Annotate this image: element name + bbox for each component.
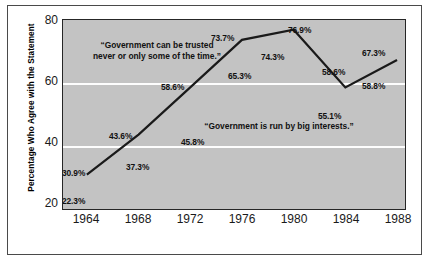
y-tick-40: 40	[32, 136, 58, 148]
x-tick-1968: 1968	[118, 213, 158, 225]
value-label-interests-1988: 58.8%	[362, 81, 385, 91]
annotation-trusted-line2: never or only some of the time.”	[93, 51, 221, 61]
value-label-trust-1984: 58.6%	[322, 67, 345, 77]
x-axis-tick-labels: 1964 1968 1972 1976 1980 1984 1988	[62, 213, 406, 233]
annotation-trusted-line1: “Government can be trusted	[100, 40, 213, 50]
y-axis-tick-labels: 80 60 40 20	[26, 0, 58, 261]
annotation-trusted: “Government can be trusted never or only…	[77, 40, 237, 62]
x-tick-1980: 1980	[274, 213, 314, 225]
x-tick-1988: 1988	[378, 213, 418, 225]
value-label-interests-1980: 74.3%	[261, 52, 284, 62]
x-tick-1976: 1976	[222, 213, 262, 225]
x-tick-1972: 1972	[170, 213, 210, 225]
value-label-interests-1964: 22.3%	[62, 196, 85, 206]
value-label-interests-1968: 37.3%	[126, 162, 149, 172]
value-label-trust-1972: 58.6%	[161, 82, 184, 92]
chart-figure: Percentage Who Agree with the Statement …	[0, 0, 429, 261]
value-label-interests-1984: 55.1%	[318, 111, 341, 121]
annotation-big-interests: “Government is run by big interests.”	[194, 121, 364, 132]
plot-area: 30.9% 43.6% 58.6% 73.7% 76.9% 58.6% 67.3…	[62, 19, 406, 210]
value-label-trust-1968: 43.6%	[109, 131, 132, 141]
value-label-interests-1972: 45.8%	[181, 137, 204, 147]
value-label-interests-1976: 65.3%	[228, 71, 251, 81]
value-label-trust-1988: 67.3%	[362, 48, 385, 58]
value-label-trust-1964: 30.9%	[62, 168, 85, 178]
y-tick-60: 60	[32, 75, 58, 87]
x-tick-1964: 1964	[66, 213, 106, 225]
y-tick-20: 20	[32, 197, 58, 209]
y-tick-80: 80	[32, 14, 58, 26]
value-label-trust-1980: 76.9%	[288, 25, 311, 35]
x-tick-1984: 1984	[326, 213, 366, 225]
